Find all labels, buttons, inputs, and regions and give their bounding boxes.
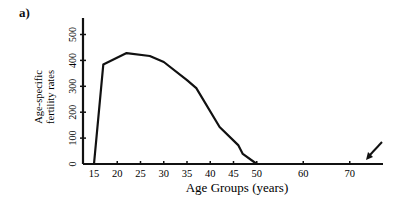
x-tick-label: 40	[205, 168, 216, 179]
x-tick-label: 45	[228, 168, 239, 179]
fertility-curve	[94, 53, 257, 164]
y-tick-label: 100	[67, 131, 78, 146]
x-tick-label: 15	[89, 168, 100, 179]
fertility-chart: 0100200300400500 15202530354045506070 Ag…	[0, 0, 403, 201]
y-axis-title: Age-specificfertility rates	[33, 70, 56, 124]
y-tick-label: 400	[67, 53, 78, 68]
y-axis-title-line: fertility rates	[45, 70, 56, 124]
axes	[83, 18, 383, 164]
y-axis-title-line: Age-specific	[33, 70, 44, 124]
x-tick-label: 20	[112, 168, 123, 179]
x-tick-label: 70	[345, 168, 356, 179]
y-tick-label: 500	[67, 27, 78, 42]
x-tick-label: 25	[135, 168, 146, 179]
x-tick-label: 30	[159, 168, 170, 179]
x-tick-label: 35	[182, 168, 193, 179]
x-tick-label: 50	[252, 168, 263, 179]
arrow-annotation	[366, 142, 382, 160]
y-tick-label: 300	[67, 79, 78, 94]
y-tick-label: 200	[67, 105, 78, 120]
x-axis-title: Age Groups (years)	[186, 180, 289, 195]
y-tick-label: 0	[67, 162, 78, 167]
x-tick-label: 60	[298, 168, 309, 179]
